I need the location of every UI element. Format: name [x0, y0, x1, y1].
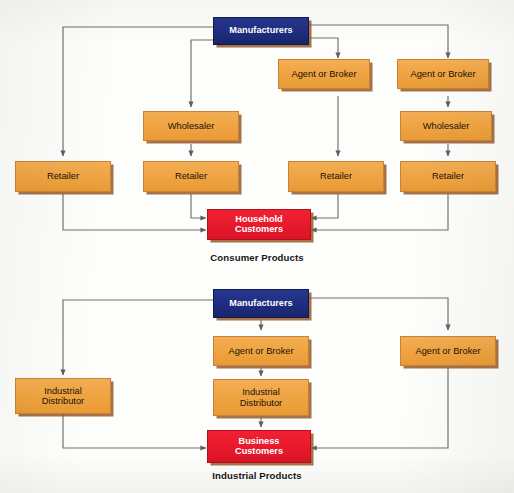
industrial-distributor-left-label-line2: Distributor [42, 396, 84, 406]
consumer-retailer-col1-label: Retailer [47, 171, 79, 181]
consumer-retailer-col4-box[interactable]: Retailer [400, 161, 496, 192]
industrial-agent-broker-right-box[interactable]: Agent or Broker [400, 336, 496, 366]
business-customers-label-line1: Business [239, 437, 280, 447]
consumer-wholesaler-col2-box[interactable]: Wholesaler [143, 111, 239, 141]
consumer-retailer-col1-box[interactable]: Retailer [15, 161, 111, 192]
industrial-distributor-left-box[interactable]: Industrial Distributor [15, 378, 111, 414]
industrial-agent-broker-center-box[interactable]: Agent or Broker [213, 336, 309, 366]
consumer-manufacturers-box[interactable]: Manufacturers [213, 17, 309, 45]
consumer-agent-broker-col3-label: Agent or Broker [291, 69, 356, 79]
consumer-manufacturers-label: Manufacturers [229, 26, 292, 36]
industrial-manufacturers-label: Manufacturers [229, 299, 292, 309]
industrial-distributor-center-label-line1: Industrial [242, 387, 280, 397]
household-customers-label-line2: Customers [235, 225, 283, 235]
consumer-retailer-col4-label: Retailer [432, 171, 464, 181]
consumer-retailer-col2-box[interactable]: Retailer [143, 161, 239, 192]
consumer-connectors [63, 25, 448, 230]
consumer-retailer-col2-label: Retailer [175, 171, 207, 181]
consumer-retailer-col3-box[interactable]: Retailer [288, 161, 384, 192]
consumer-agent-broker-col3-box[interactable]: Agent or Broker [278, 59, 370, 89]
industrial-distributor-left-label-line1: Industrial [44, 386, 82, 396]
household-customers-label-line1: Household [235, 215, 282, 225]
consumer-wholesaler-col4-box[interactable]: Wholesaler [400, 111, 492, 141]
industrial-manufacturers-box[interactable]: Manufacturers [213, 289, 309, 318]
industrial-agent-broker-right-label: Agent or Broker [415, 346, 480, 356]
industrial-distributor-center-box[interactable]: Industrial Distributor [213, 379, 309, 416]
industrial-products-caption: Industrial Products [157, 470, 357, 481]
distribution-channels-diagram: Manufacturers Agent or Broker Agent or B… [0, 0, 514, 493]
business-customers-box[interactable]: Business Customers [207, 430, 311, 463]
household-customers-box[interactable]: Household Customers [207, 209, 311, 240]
industrial-agent-broker-center-label: Agent or Broker [228, 346, 293, 356]
consumer-agent-broker-col4-box[interactable]: Agent or Broker [397, 59, 489, 89]
consumer-wholesaler-col4-label: Wholesaler [423, 121, 470, 131]
industrial-distributor-center-label-line2: Distributor [240, 398, 282, 408]
consumer-agent-broker-col4-label: Agent or Broker [410, 69, 475, 79]
business-customers-label-line2: Customers [235, 447, 283, 457]
consumer-products-caption: Consumer Products [157, 252, 357, 263]
industrial-connectors [63, 298, 448, 448]
consumer-retailer-col3-label: Retailer [320, 171, 352, 181]
consumer-wholesaler-col2-label: Wholesaler [168, 121, 215, 131]
